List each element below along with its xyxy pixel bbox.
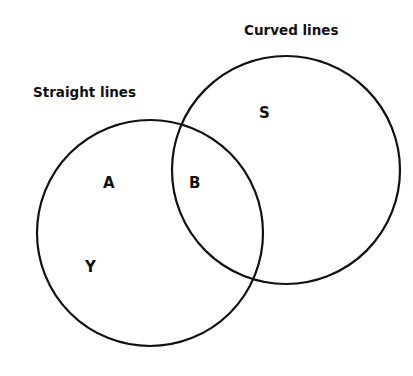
region-a-label: A bbox=[103, 174, 115, 192]
curved-lines-label: Curved lines bbox=[244, 22, 339, 38]
region-s-label: S bbox=[259, 104, 270, 122]
region-y-label: Y bbox=[84, 258, 97, 276]
curved-lines-circle bbox=[172, 56, 400, 284]
region-b-label: B bbox=[189, 174, 200, 192]
straight-lines-circle bbox=[37, 120, 263, 346]
straight-lines-label: Straight lines bbox=[33, 84, 136, 100]
venn-diagram: Curved lines Straight lines A B S Y bbox=[0, 0, 413, 376]
